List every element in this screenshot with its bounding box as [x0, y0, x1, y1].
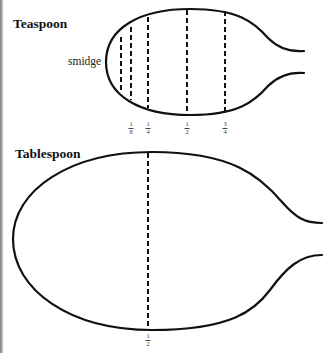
teaspoon-title: Teaspoon [13, 16, 67, 32]
fraction-numerator: 1 [185, 121, 188, 127]
fraction-numerator: 1 [146, 121, 149, 127]
fraction-label-half: 1 2 [185, 121, 190, 135]
fraction-denominator: 2 [185, 129, 188, 135]
spoon-measurement-diagram: Teaspoon smidge 1 8 1 4 1 2 3 4 Tablespo… [0, 0, 333, 353]
fraction-label-three-quarter: 3 4 [223, 121, 228, 135]
fraction-numerator: 1 [129, 121, 132, 127]
teaspoon-dashed-lines [121, 10, 225, 115]
fraction-denominator: 8 [129, 129, 132, 135]
fraction-denominator: 4 [223, 129, 226, 135]
tablespoon-outline [13, 152, 322, 330]
fraction-label-half-tablespoon: 1 2 [146, 333, 151, 347]
spoon-outlines [0, 0, 333, 353]
tablespoon-title: Tablespoon [15, 146, 81, 162]
fraction-denominator: 2 [146, 341, 149, 347]
fraction-numerator: 1 [146, 333, 149, 339]
teaspoon-outline [106, 9, 304, 115]
smidge-label: smidge [68, 55, 101, 67]
fraction-label-quarter: 1 4 [146, 121, 151, 135]
fraction-numerator: 3 [223, 121, 226, 127]
fraction-label-eighth: 1 8 [129, 121, 134, 135]
fraction-denominator: 4 [146, 129, 149, 135]
